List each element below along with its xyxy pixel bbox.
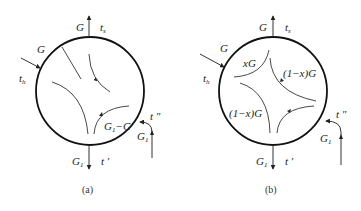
- caption-a: (a): [82, 184, 93, 196]
- caption-b: (b): [265, 184, 277, 196]
- inner-straight-line: [62, 47, 81, 79]
- inner-curve-upper-right: [89, 54, 110, 92]
- recycle-flow-label: G1: [137, 130, 148, 144]
- diagram-a: G ts G th G1−G t ″ G1 G1 t ′ (a): [19, 16, 161, 196]
- vessel-circle: [219, 37, 327, 145]
- top-flow-label: G: [259, 21, 267, 33]
- bottom-flow-label: G1: [256, 155, 267, 169]
- inner-xg-label: xG: [242, 57, 256, 69]
- inner-curve-top-right: [270, 58, 316, 101]
- bottom-flow-label: G1: [72, 155, 83, 169]
- inner-mix-label: G1−G: [104, 120, 131, 134]
- inlet-temp-label: th: [203, 72, 210, 86]
- inlet-flow-label: G: [37, 43, 45, 55]
- recycle-temp-label: t ″: [150, 110, 161, 122]
- bottom-temp-label: t ′: [285, 155, 294, 167]
- inner-right-label: (1−x)G: [283, 67, 316, 80]
- inner-left-label: (1−x)G: [229, 107, 262, 120]
- recycle-up-arrowhead: [339, 134, 343, 139]
- top-temp-label: ts: [285, 21, 291, 35]
- inlet-arrow: [200, 54, 224, 67]
- inner-curve-lower-left: [52, 82, 88, 134]
- top-temp-label: ts: [100, 21, 106, 35]
- inlet-arrow: [21, 58, 40, 68]
- inner-curve-bottom-right: [277, 106, 314, 133]
- diagram-b: G ts G th xG (1−x)G (1−x)G t ″ G1 G1 t ′…: [200, 16, 347, 196]
- recycle-flow-label: G1: [320, 132, 331, 146]
- recycle-up-arrowhead: [150, 130, 154, 135]
- inlet-flow-label: G: [220, 42, 228, 54]
- inlet-temp-label: th: [19, 72, 26, 86]
- bottom-temp-label: t ′: [101, 155, 110, 167]
- top-flow-label: G: [76, 21, 84, 33]
- inner-flow-arrowhead: [99, 112, 103, 116]
- recycle-temp-label: t ″: [336, 108, 347, 120]
